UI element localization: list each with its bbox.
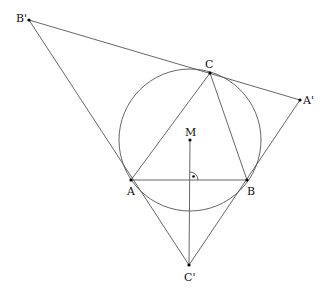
segment-MC'	[189, 140, 190, 265]
label-B-prime: B'	[16, 13, 27, 24]
tangent-A'C'	[189, 100, 300, 265]
right-angle-dot	[192, 175, 195, 178]
label-A-prime: A'	[303, 95, 314, 106]
label-A: A	[127, 186, 135, 197]
tangent-B'A'	[29, 20, 300, 100]
point-A-prime	[298, 98, 301, 101]
point-C	[208, 71, 211, 74]
tangent-B'C'	[29, 20, 189, 265]
label-C: C	[205, 59, 213, 70]
segment-BC	[210, 73, 247, 180]
label-M: M	[185, 127, 196, 138]
point-B	[245, 178, 248, 181]
diagram-canvas	[0, 0, 326, 295]
point-B-prime	[27, 18, 30, 21]
segment-CA	[131, 73, 210, 180]
label-C-prime: C'	[184, 272, 195, 283]
geometry-diagram: B' C A' M A B C'	[0, 0, 326, 295]
point-C-prime	[187, 263, 190, 266]
label-B: B	[247, 186, 255, 197]
point-A	[129, 178, 132, 181]
